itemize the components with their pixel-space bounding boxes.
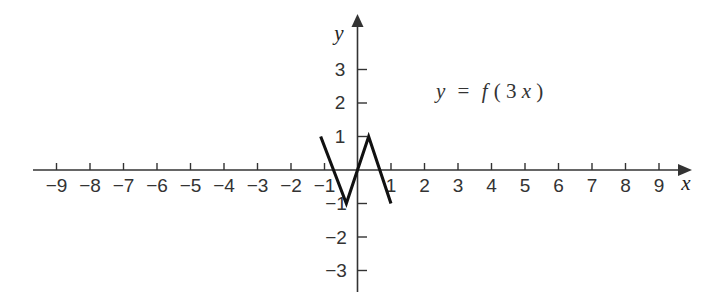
y-tick-label: −3	[325, 260, 347, 281]
x-tick-label: −5	[180, 175, 202, 196]
y-tick-label: 1	[335, 126, 346, 147]
x-tick-label: −7	[113, 175, 135, 196]
x-axis-label: x	[680, 171, 691, 195]
equation-equals: =	[458, 79, 470, 103]
x-tick-label: 2	[419, 175, 430, 196]
x-tick-label: −6	[146, 175, 168, 196]
figure-canvas: −9 −8 −7 −6 −5 −4 −3 −2 −1 1 2 3 4 5 6 7…	[0, 0, 711, 303]
x-tick-label: −4	[213, 175, 235, 196]
x-tick-label: 7	[587, 175, 598, 196]
function-graph: −9 −8 −7 −6 −5 −4 −3 −2 −1 1 2 3 4 5 6 7…	[0, 0, 711, 303]
equation-coefficient: 3	[506, 79, 517, 103]
x-tick-label: −8	[79, 175, 101, 196]
x-tick-label: −9	[46, 175, 68, 196]
svg-text:y = f: y = f ( 3 x )	[434, 79, 543, 103]
equation-open-paren: (	[494, 79, 501, 103]
equation-lhs: y	[434, 79, 446, 103]
x-tick-label: −2	[280, 175, 302, 196]
y-tick-label: 2	[335, 92, 346, 113]
y-tick-label: −2	[325, 227, 347, 248]
x-tick-label: −3	[247, 175, 269, 196]
x-tick-label: 3	[453, 175, 464, 196]
x-tick-label: 4	[486, 175, 497, 196]
x-tick-label: 8	[620, 175, 631, 196]
x-tick-label: 5	[520, 175, 531, 196]
y-axis-label: y	[332, 21, 344, 45]
equation-close-paren: )	[536, 79, 543, 103]
equation-function-name: f	[482, 79, 491, 103]
x-tick-label: 6	[553, 175, 564, 196]
y-axis-arrow-icon	[352, 14, 364, 27]
y-tick-label: 3	[335, 59, 346, 80]
x-tick-label: 9	[654, 175, 665, 196]
equation-variable: x	[521, 79, 532, 103]
equation-annotation: y = f ( 3 x )	[434, 79, 543, 103]
